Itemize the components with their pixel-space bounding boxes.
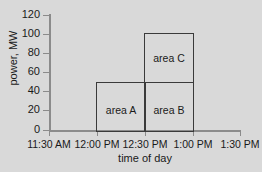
region-label-area-a: area A [106,104,136,116]
region-label-area-c: area C [153,52,185,64]
power-vs-time-chart: 120 100 80 60 40 20 0 power, MW 11:30 AM… [0,0,262,172]
plot-area: area A area B area C [0,0,262,172]
region-label-area-b: area B [154,104,185,116]
